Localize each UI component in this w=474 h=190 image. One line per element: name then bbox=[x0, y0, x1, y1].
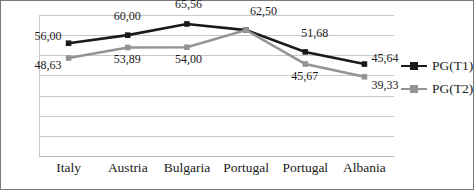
data-point-marker bbox=[302, 49, 308, 55]
data-label-PG(T1)-4: 51,68 bbox=[301, 27, 328, 39]
data-label-PG(T1)-0: 56,00 bbox=[35, 30, 62, 42]
data-label-PG(T2)-4: 45,67 bbox=[291, 70, 318, 82]
data-label-PG(T1)-5: 45,64 bbox=[371, 52, 398, 64]
data-label-PG(T2)-0: 48,63 bbox=[35, 59, 62, 71]
data-label-PG(T2)-5: 39,33 bbox=[371, 79, 398, 91]
x-tick-label-3: Portugal bbox=[223, 161, 269, 175]
data-point-marker bbox=[66, 40, 72, 46]
legend-label: PG(T1) bbox=[432, 59, 473, 73]
legend-square-marker-icon bbox=[410, 85, 418, 93]
x-tick-label-5: Albania bbox=[343, 161, 386, 175]
x-tick-label-2: Bulgaria bbox=[164, 161, 211, 175]
data-point-marker bbox=[66, 55, 72, 61]
data-point-marker bbox=[184, 44, 190, 50]
series-lines bbox=[39, 15, 394, 156]
data-point-marker bbox=[243, 27, 249, 33]
data-label-PG(T1)-2: 65,56 bbox=[175, 0, 202, 10]
data-point-marker bbox=[125, 45, 131, 51]
data-point-marker bbox=[362, 61, 368, 67]
data-point-marker bbox=[184, 21, 190, 27]
data-point-marker bbox=[125, 32, 131, 38]
x-tick-label-0: Italy bbox=[56, 161, 81, 175]
legend-square-marker-icon bbox=[410, 62, 418, 70]
data-label-PG(T2)-1: 53,89 bbox=[114, 53, 141, 65]
data-point-marker bbox=[362, 74, 368, 80]
chart-figure: 706050403020100 56,0060,0065,5662,5051,6… bbox=[0, 0, 474, 190]
legend-key-icon bbox=[401, 84, 427, 94]
data-label-PG(T2)-2: 54,00 bbox=[175, 53, 202, 65]
legend-key-icon bbox=[401, 61, 427, 71]
data-label-PG(T1)-3: 62,50 bbox=[250, 5, 277, 17]
gridline-0 bbox=[39, 156, 394, 157]
legend-label: PG(T2) bbox=[432, 82, 473, 96]
data-point-marker bbox=[302, 61, 308, 67]
chart-legend: PG(T1)PG(T2) bbox=[401, 54, 474, 100]
x-tick-label-1: Austria bbox=[108, 161, 148, 175]
data-label-PG(T1)-1: 60,00 bbox=[114, 10, 141, 22]
legend-item-PG(T1)[interactable]: PG(T1) bbox=[401, 54, 474, 77]
x-tick-label-4: Portugal bbox=[282, 161, 328, 175]
plot-area: 56,0060,0065,5662,5051,6845,6448,6353,89… bbox=[39, 15, 394, 156]
legend-item-PG(T2)[interactable]: PG(T2) bbox=[401, 77, 474, 100]
